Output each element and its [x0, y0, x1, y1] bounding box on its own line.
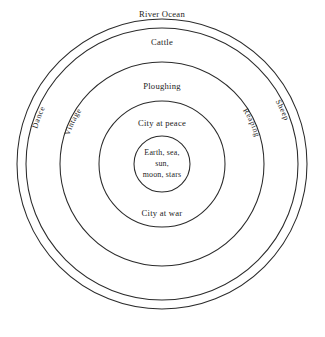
label-ploughing: Ploughing	[143, 81, 181, 91]
label-vintage: Vintage	[63, 106, 84, 136]
label-reaping: Reaping	[241, 107, 262, 139]
core-line-moon-stars: moon, stars	[143, 170, 182, 179]
shield-diagram-canvas: River Ocean Cattle Ploughing City at pea…	[0, 0, 325, 337]
label-river-ocean: River Ocean	[139, 9, 185, 19]
label-reaping-text: Reaping	[241, 107, 262, 139]
label-vintage-text: Vintage	[63, 106, 84, 136]
label-cattle: Cattle	[151, 37, 173, 47]
label-city-at-war: City at war	[142, 208, 183, 218]
label-sheep: Sheep	[274, 98, 291, 122]
label-dance-text: Dance	[30, 105, 47, 130]
label-dance: Dance	[30, 105, 47, 130]
core-label-group: Earth, sea, sun, moon, stars	[143, 148, 182, 179]
label-sheep-text: Sheep	[274, 98, 291, 122]
label-city-at-peace: City at peace	[138, 118, 186, 128]
core-line-sun: sun,	[155, 159, 169, 168]
shield-diagram: River Ocean Cattle Ploughing City at pea…	[0, 0, 325, 337]
core-line-earth-sea: Earth, sea,	[144, 148, 179, 157]
